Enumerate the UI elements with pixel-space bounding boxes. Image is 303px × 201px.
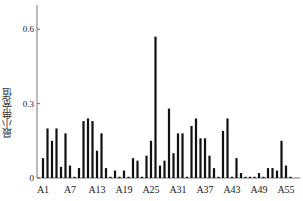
bar-a3 [51, 141, 53, 178]
bar-a56 [289, 177, 291, 178]
bar-a54 [280, 141, 282, 178]
bar-a46 [244, 177, 246, 178]
bar-a50 [262, 177, 264, 178]
x-tick-label: A37 [196, 184, 213, 195]
bar-a43 [231, 177, 233, 178]
bar-a9 [78, 168, 80, 178]
bar-a6 [64, 133, 66, 178]
bar-a33 [186, 177, 188, 178]
bar-a4 [55, 128, 57, 178]
bar-a19 [123, 171, 125, 178]
x-tick-label: A19 [115, 184, 132, 195]
bar-a53 [276, 171, 278, 178]
bars [42, 37, 292, 178]
bar-a48 [253, 177, 255, 178]
bar-a31 [177, 133, 179, 178]
bar-a12 [91, 121, 93, 178]
bar-a42 [226, 118, 228, 178]
bar-a21 [132, 158, 134, 178]
bar-a20 [127, 177, 129, 178]
bar-a49 [258, 173, 260, 178]
bar-a44 [235, 158, 237, 178]
bar-a2 [46, 128, 48, 178]
bar-a18 [118, 177, 120, 178]
bar-a11 [87, 118, 89, 178]
bar-a34 [190, 126, 192, 178]
bar-a15 [105, 168, 107, 178]
bar-a29 [168, 109, 170, 178]
bar-chart: 00.30.6 A1A7A13A19A25A31A37A43A49A55 [0, 0, 303, 201]
bar-a37 [204, 138, 206, 178]
bar-a16 [109, 177, 111, 178]
bar-a14 [100, 133, 102, 178]
x-tick-label: A49 [250, 184, 267, 195]
bar-a51 [267, 168, 269, 178]
bar-a52 [271, 168, 273, 178]
bar-a10 [82, 121, 84, 178]
bar-a39 [213, 168, 215, 178]
x-tick-label: A13 [88, 184, 105, 195]
bar-a38 [208, 156, 210, 178]
bar-a17 [114, 171, 116, 178]
x-tick-label: A43 [223, 184, 240, 195]
x-ticks: A1A7A13A19A25A31A37A43A49A55 [37, 184, 295, 195]
y-tick-label: 0.6 [23, 24, 35, 34]
x-tick-label: A55 [277, 184, 294, 195]
bar-a30 [172, 153, 174, 178]
bar-a55 [285, 166, 287, 178]
x-tick-label: A7 [64, 184, 76, 195]
bar-a13 [96, 151, 98, 178]
bar-a35 [195, 118, 197, 178]
bar-a41 [222, 131, 224, 178]
x-tick-label: A31 [169, 184, 186, 195]
y-tick-label: 0.3 [23, 99, 35, 109]
bar-a1 [42, 158, 44, 178]
bar-a40 [217, 177, 219, 178]
bar-a8 [73, 177, 75, 178]
bar-a47 [249, 177, 251, 178]
bar-a22 [136, 161, 138, 178]
bar-a25 [150, 141, 152, 178]
y-tick-label: 0 [30, 173, 35, 183]
bar-a23 [141, 177, 143, 178]
bar-a26 [154, 37, 156, 178]
bar-a24 [145, 156, 147, 178]
x-tick-label: A1 [37, 184, 49, 195]
bar-a27 [159, 166, 161, 178]
bar-a36 [199, 138, 201, 178]
bar-a45 [240, 173, 242, 178]
x-tick-label: A25 [142, 184, 159, 195]
bar-a28 [163, 161, 165, 178]
bar-a32 [181, 133, 183, 178]
bar-a7 [69, 166, 71, 178]
bar-a5 [60, 167, 62, 178]
y-ticks: 00.30.6 [23, 24, 40, 183]
